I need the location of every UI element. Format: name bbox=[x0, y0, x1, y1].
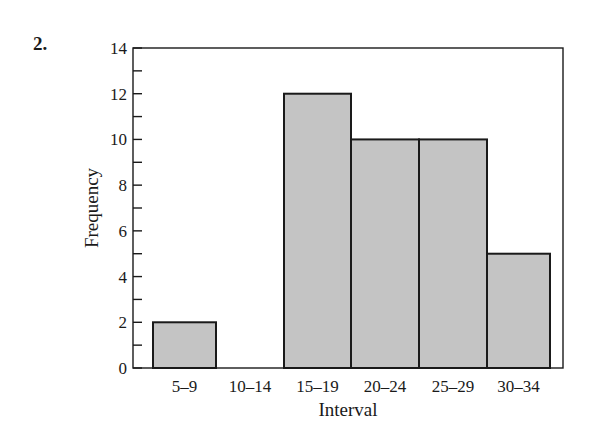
x-tick-label: 25–29 bbox=[432, 377, 475, 396]
x-tick-label: 15–19 bbox=[296, 377, 339, 396]
y-tick-label: 4 bbox=[119, 268, 128, 287]
y-tick-label: 0 bbox=[119, 359, 128, 378]
y-tick-label: 8 bbox=[119, 176, 128, 195]
x-axis-title: Interval bbox=[318, 399, 377, 420]
y-tick-label: 12 bbox=[110, 85, 127, 104]
y-tick-label: 10 bbox=[110, 130, 127, 149]
x-tick-labels: 5–910–1415–1920–2425–2930–34 bbox=[172, 377, 541, 396]
x-tick-label: 5–9 bbox=[172, 377, 198, 396]
bar-20–24 bbox=[351, 139, 419, 368]
x-tick-label: 10–14 bbox=[229, 377, 272, 396]
y-tick-label: 2 bbox=[119, 313, 128, 332]
bar-30–34 bbox=[487, 254, 550, 368]
bar-25–29 bbox=[419, 139, 487, 368]
bar-15–19 bbox=[284, 94, 351, 368]
bars bbox=[153, 94, 550, 368]
y-tick-label: 6 bbox=[119, 222, 128, 241]
y-tick-label: 14 bbox=[110, 39, 128, 58]
bar-5–9 bbox=[153, 322, 216, 368]
x-tick-label: 30–34 bbox=[497, 377, 540, 396]
histogram-chart: 02468101214 5–910–1415–1920–2425–2930–34… bbox=[0, 0, 596, 434]
x-tick-label: 20–24 bbox=[364, 377, 407, 396]
y-ticks: 02468101214 bbox=[110, 39, 142, 378]
y-axis-title: Frequency bbox=[81, 167, 102, 248]
